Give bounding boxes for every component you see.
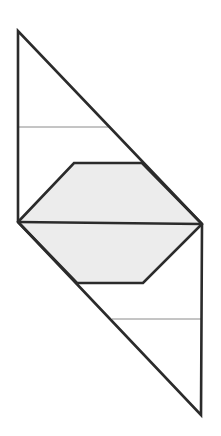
diagram-canvas (0, 0, 221, 436)
geometry-figure (0, 0, 221, 436)
